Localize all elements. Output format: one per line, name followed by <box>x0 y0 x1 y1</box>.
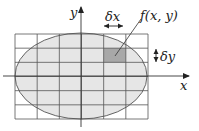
x-axis-label: x <box>180 78 188 93</box>
highlighted-cell <box>104 48 126 62</box>
y-axis-label: y <box>69 5 78 20</box>
delta-x-label: δx <box>105 9 121 24</box>
function-label: f(x, y) <box>139 8 178 23</box>
integration-region-diagram: y x δx δy f(x, y) <box>0 0 199 131</box>
delta-y-label: δy <box>160 49 176 64</box>
